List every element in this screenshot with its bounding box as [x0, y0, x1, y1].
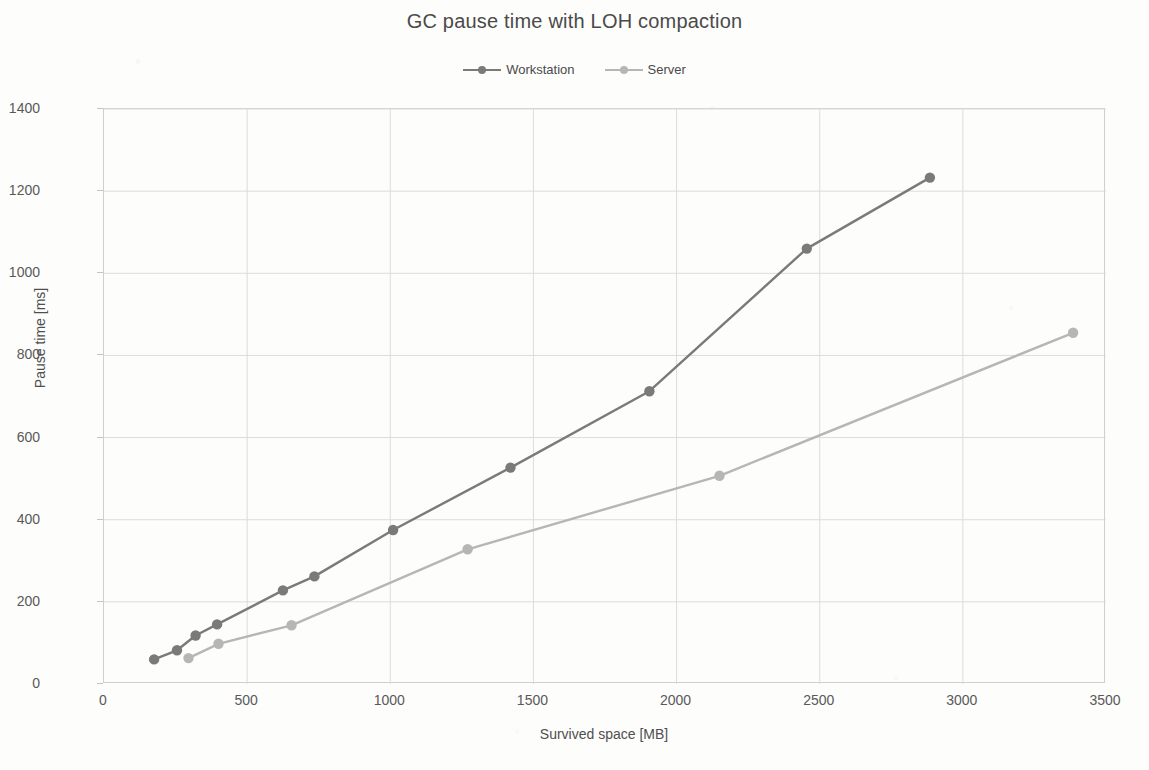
data-point-workstation[interactable]: [309, 571, 319, 581]
x-axis-tick-label: 1500: [517, 692, 548, 708]
y-axis-tick-label: 0: [0, 675, 40, 691]
y-axis-tick-mark: [97, 437, 103, 438]
data-point-server[interactable]: [213, 639, 223, 649]
data-point-workstation[interactable]: [802, 243, 812, 253]
x-axis-tick-label: 0: [99, 692, 107, 708]
legend-label-workstation: Workstation: [506, 62, 574, 77]
x-axis-tick-label: 1000: [374, 692, 405, 708]
data-point-server[interactable]: [1068, 328, 1078, 338]
y-axis-tick-label: 400: [0, 511, 40, 527]
y-axis-tick-label: 1400: [0, 100, 40, 116]
data-point-workstation[interactable]: [925, 172, 935, 182]
y-axis-tick-mark: [97, 519, 103, 520]
data-point-server[interactable]: [286, 620, 296, 630]
data-point-server[interactable]: [462, 544, 472, 554]
legend-entry-server: Server: [605, 62, 686, 77]
x-axis-tick-label: 3500: [1089, 692, 1120, 708]
data-point-workstation[interactable]: [190, 630, 200, 640]
chart-figure: GC pause time with LOH compaction Workst…: [0, 0, 1149, 770]
data-point-server[interactable]: [183, 653, 193, 663]
x-axis-tick-label: 500: [234, 692, 257, 708]
data-point-server[interactable]: [714, 471, 724, 481]
y-axis-tick-mark: [97, 272, 103, 273]
x-axis-tick-label: 2000: [660, 692, 691, 708]
plot-area: [103, 108, 1105, 683]
y-axis-tick-mark: [97, 354, 103, 355]
y-axis-tick-label: 1200: [0, 182, 40, 198]
series-line-workstation: [154, 178, 930, 660]
data-point-workstation[interactable]: [149, 654, 159, 664]
data-point-workstation[interactable]: [278, 585, 288, 595]
y-axis-tick-mark: [97, 601, 103, 602]
legend-label-server: Server: [648, 62, 686, 77]
series-line-server: [189, 333, 1074, 658]
plot-canvas: [104, 109, 1106, 684]
y-axis-tick-mark: [97, 108, 103, 109]
y-axis-label: Pause time [ms]: [32, 238, 48, 438]
x-axis-tick-label: 2500: [803, 692, 834, 708]
data-point-workstation[interactable]: [172, 645, 182, 655]
chart-legend: Workstation Server: [0, 62, 1149, 77]
y-axis-tick-label: 200: [0, 593, 40, 609]
legend-marker-server: [605, 65, 643, 75]
data-point-workstation[interactable]: [212, 619, 222, 629]
x-axis-label: Survived space [MB]: [103, 726, 1105, 742]
legend-entry-workstation: Workstation: [463, 62, 574, 77]
x-axis-tick-label: 3000: [946, 692, 977, 708]
data-point-workstation[interactable]: [644, 386, 654, 396]
chart-title: GC pause time with LOH compaction: [0, 10, 1149, 33]
y-axis-tick-mark: [97, 683, 103, 684]
data-point-workstation[interactable]: [388, 525, 398, 535]
legend-marker-workstation: [463, 65, 501, 75]
data-point-workstation[interactable]: [505, 462, 515, 472]
y-axis-tick-mark: [97, 190, 103, 191]
